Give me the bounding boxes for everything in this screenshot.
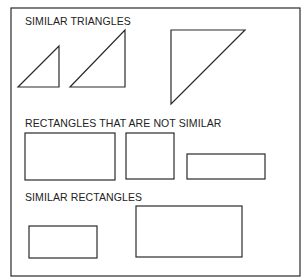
triangle-large [171, 30, 245, 104]
frame-border [11, 8, 300, 276]
rect-not-similar-1 [25, 133, 115, 180]
rect-similar-small [29, 226, 97, 258]
triangle-medium [70, 30, 125, 87]
heading-rectangles-not-similar: RECTANGLES THAT ARE NOT SIMILAR [25, 117, 221, 129]
rect-not-similar-2 [126, 133, 174, 179]
diagram-canvas [0, 0, 308, 280]
heading-similar-triangles: SIMILAR TRIANGLES [25, 15, 131, 27]
heading-similar-rectangles: SIMILAR RECTANGLES [25, 191, 142, 203]
rect-similar-large [136, 206, 242, 257]
triangle-small [18, 46, 59, 87]
rect-not-similar-3 [187, 154, 265, 179]
